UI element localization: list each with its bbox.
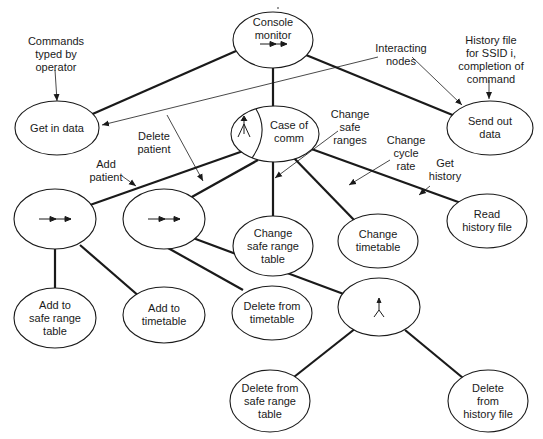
annotation-add-patient: Add patient [84, 158, 128, 184]
label-get-in-data: Get in data [30, 122, 84, 135]
edge-delseq-to-deltime [168, 248, 243, 290]
annotation-interacting-nodes: Interacting nodes [366, 42, 436, 68]
label-add-to-timetable: Add to timetable [142, 302, 187, 328]
label-delete-from-timetable: Delete from timetable [244, 300, 301, 326]
edge-console-to-getin [88, 51, 236, 116]
label-delete-from-history-file: Delete from history file [463, 382, 513, 421]
label-read-history-file: Read history file [462, 208, 512, 234]
annotation-commands-typed: Commands typed by operator [24, 35, 88, 74]
label-case-of-comm: Case of comm [270, 119, 308, 145]
edge-parallel-to-delhist [405, 330, 463, 378]
label-change-safe-range-table: Change safe range table [247, 227, 299, 266]
label-delete-from-safe-range-table: Delete from safe range table [242, 382, 299, 421]
dot-mark [277, 7, 279, 9]
label-send-out-data: Send out data [464, 115, 517, 141]
label-console-monitor: Console monitor [253, 16, 293, 42]
pointer-commands [55, 70, 57, 101]
edge-addseq-to-addtime [80, 245, 140, 297]
label-add-to-safe-range-table: Add to safe range table [29, 299, 81, 338]
annotation-change-safe-ranges: Change safe ranges [325, 108, 375, 147]
edge-parallel-to-delsafe [294, 328, 356, 377]
annotation-get-history: Get history [420, 157, 470, 183]
edge-case-to-changetime [292, 156, 355, 221]
annotation-delete-patient: Delete patient [130, 130, 178, 156]
annotation-history-file: History file for SSID i, completion of c… [449, 34, 533, 86]
label-change-timetable: Change timetable [356, 228, 401, 254]
